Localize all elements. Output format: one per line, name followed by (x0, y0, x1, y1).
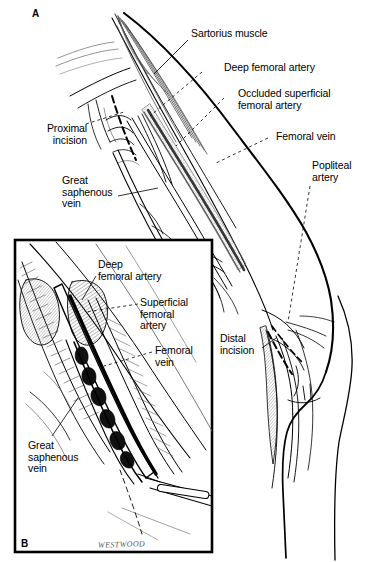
artist-signature: WESTWOOD (98, 539, 145, 550)
illustration-artwork (0, 0, 375, 562)
label-b-deep-femoral-artery: Deep femoral artery (98, 259, 161, 282)
label-b-superficial-femoral-artery: Superficial femoral artery (140, 297, 188, 332)
panel-b-group (15, 240, 218, 552)
label-b-femoral-vein: Femoral vein (155, 345, 193, 368)
label-b-great-saphenous-vein: Great saphenous vein (28, 440, 78, 475)
panel-letter-a: A (32, 8, 39, 19)
label-occluded-superficial-femoral-artery: Occluded superficial femoral artery (238, 88, 331, 111)
label-deep-femoral-artery: Deep femoral artery (224, 62, 315, 74)
label-distal-incision: Distal incision (220, 333, 254, 356)
label-femoral-vein: Femoral vein (276, 131, 336, 143)
label-proximal-incision: Proximal incision (21, 123, 87, 146)
panel-letter-b: B (21, 538, 28, 549)
label-great-saphenous-vein-a: Great saphenous vein (62, 175, 112, 210)
label-sartorius-muscle: Sartorius muscle (191, 28, 268, 40)
medical-illustration-figure: A Sartorius muscle Deep femoral artery O… (0, 0, 375, 562)
label-popliteal-artery: Popliteal artery (312, 160, 351, 183)
